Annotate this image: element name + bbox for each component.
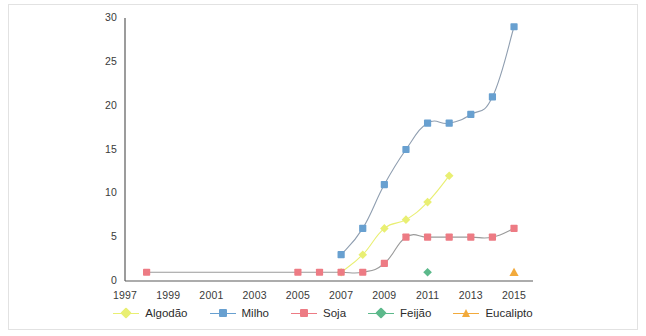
- legend-label: Algodão: [145, 307, 187, 319]
- legend-swatch-eucalipto: [453, 307, 479, 319]
- chart-legend: AlgodãoMilhoSojaFeijãoEucalipto: [0, 307, 646, 319]
- data-point-triangle: [509, 268, 518, 276]
- data-point-square: [359, 225, 366, 232]
- x-tick-label: 2009: [364, 289, 404, 301]
- data-point-square: [143, 269, 150, 276]
- data-point-square: [446, 234, 453, 241]
- series-line: [341, 27, 514, 255]
- data-point-square: [510, 225, 517, 232]
- x-tick-label: 2015: [494, 289, 534, 301]
- series-line: [341, 176, 449, 272]
- y-tick-label: 20: [91, 99, 117, 111]
- x-tick-label: 2007: [321, 289, 361, 301]
- data-point-square: [489, 93, 496, 100]
- data-point-square: [316, 269, 323, 276]
- data-point-square: [424, 234, 431, 241]
- y-tick-label: 0: [91, 274, 117, 286]
- x-tick-label: 1999: [148, 289, 188, 301]
- data-point-square: [359, 269, 366, 276]
- legend-label: Soja: [323, 307, 346, 319]
- legend-item-milho[interactable]: Milho: [210, 307, 269, 319]
- legend-label: Feijão: [400, 307, 431, 319]
- legend-swatch-soja: [291, 307, 317, 319]
- x-tick-label: 2011: [408, 289, 448, 301]
- legend-label: Eucalipto: [485, 307, 532, 319]
- legend-item-soja[interactable]: Soja: [291, 307, 346, 319]
- legend-swatch-algodão: [113, 307, 139, 319]
- data-point-square: [467, 234, 474, 241]
- series-milho: [338, 23, 518, 258]
- legend-label: Milho: [242, 307, 269, 319]
- series-feijão: [423, 268, 432, 277]
- legend-marker-diamond: [121, 307, 132, 318]
- data-point-square: [294, 269, 301, 276]
- data-point-square: [446, 120, 453, 127]
- data-point-square: [402, 146, 409, 153]
- plot-area: 051015202530 199719992001200320052007200…: [0, 0, 646, 336]
- x-tick-label: 2013: [451, 289, 491, 301]
- data-point-square: [510, 23, 517, 30]
- y-tick-label: 15: [91, 143, 117, 155]
- data-point-square: [402, 234, 409, 241]
- series-soja: [143, 225, 518, 276]
- series-line: [147, 228, 514, 273]
- y-tick-label: 10: [91, 186, 117, 198]
- legend-marker-triangle: [462, 309, 470, 317]
- data-point-square: [489, 234, 496, 241]
- data-point-square: [381, 260, 388, 267]
- data-point-square: [338, 269, 345, 276]
- y-tick-label: 30: [91, 11, 117, 23]
- series-layer: [143, 23, 519, 276]
- data-point-diamond: [402, 215, 411, 224]
- series-eucalipto: [509, 268, 518, 276]
- legend-marker-square: [219, 309, 227, 317]
- chart-figure: 051015202530 199719992001200320052007200…: [0, 0, 646, 336]
- legend-marker-diamond: [375, 307, 386, 318]
- legend-marker-square: [300, 309, 308, 317]
- data-point-square: [424, 120, 431, 127]
- series-algodão: [337, 172, 454, 277]
- legend-item-algodão[interactable]: Algodão: [113, 307, 187, 319]
- data-point-diamond: [423, 268, 432, 277]
- legend-swatch-feijão: [368, 307, 394, 319]
- y-tick-label: 25: [91, 55, 117, 67]
- x-tick-label: 2005: [278, 289, 318, 301]
- data-point-square: [338, 251, 345, 258]
- x-tick-label: 2001: [191, 289, 231, 301]
- axis-lines: [125, 18, 533, 281]
- legend-swatch-milho: [210, 307, 236, 319]
- data-point-square: [381, 181, 388, 188]
- legend-item-feijão[interactable]: Feijão: [368, 307, 431, 319]
- x-tick-label: 1997: [105, 289, 145, 301]
- data-point-square: [467, 111, 474, 118]
- y-tick-label: 5: [91, 230, 117, 242]
- x-tick-label: 2003: [235, 289, 275, 301]
- legend-item-eucalipto[interactable]: Eucalipto: [453, 307, 532, 319]
